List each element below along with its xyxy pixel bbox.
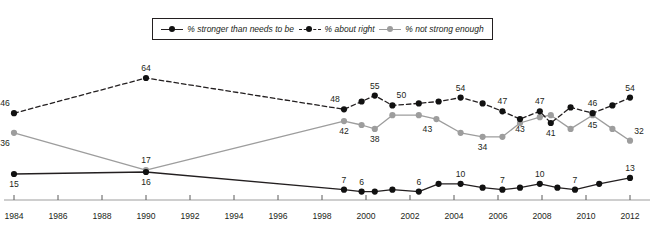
x-axis-tick-label: 2010 bbox=[576, 211, 595, 221]
data-point-label: 10 bbox=[456, 169, 466, 179]
data-point[interactable] bbox=[548, 120, 554, 126]
data-point[interactable] bbox=[389, 187, 395, 193]
chart-root: % stronger than needs to be% about right… bbox=[0, 0, 654, 231]
data-point[interactable] bbox=[548, 112, 554, 118]
data-point[interactable] bbox=[499, 134, 505, 140]
data-point[interactable] bbox=[537, 114, 543, 120]
data-point-label: 46 bbox=[0, 98, 10, 108]
data-point-label: 15 bbox=[9, 179, 19, 189]
x-axis-tick-label: 1988 bbox=[92, 211, 111, 221]
series-line-1 bbox=[14, 115, 630, 170]
data-point[interactable] bbox=[568, 104, 574, 110]
x-axis-tick-label: 2002 bbox=[400, 211, 419, 221]
data-point[interactable] bbox=[341, 118, 347, 124]
data-point-label: 43 bbox=[423, 124, 433, 134]
data-point[interactable] bbox=[436, 98, 442, 104]
data-point-label: 32 bbox=[634, 126, 644, 136]
data-point[interactable] bbox=[341, 187, 347, 193]
data-point-label: 41 bbox=[546, 128, 556, 138]
x-axis-tick-label: 1992 bbox=[180, 211, 199, 221]
data-point[interactable] bbox=[458, 181, 464, 187]
data-point[interactable] bbox=[372, 189, 378, 195]
data-point-label: 64 bbox=[141, 63, 151, 73]
data-point[interactable] bbox=[572, 187, 578, 193]
data-point[interactable] bbox=[499, 108, 505, 114]
data-point-label: 55 bbox=[370, 81, 380, 91]
data-point-label: 54 bbox=[456, 83, 466, 93]
data-point[interactable] bbox=[372, 93, 378, 99]
x-axis-tick-label: 2008 bbox=[532, 211, 551, 221]
data-point-label: 45 bbox=[588, 120, 598, 130]
data-point-label: 7 bbox=[342, 175, 347, 185]
x-axis-tick-label: 1998 bbox=[312, 211, 331, 221]
data-point-label: 7 bbox=[573, 175, 578, 185]
data-point[interactable] bbox=[143, 75, 149, 81]
data-point[interactable] bbox=[537, 108, 543, 114]
data-point-label: 50 bbox=[397, 90, 407, 100]
data-point-label: 17 bbox=[141, 155, 151, 165]
data-point[interactable] bbox=[359, 98, 365, 104]
data-point[interactable] bbox=[458, 95, 464, 101]
data-point[interactable] bbox=[596, 181, 602, 187]
x-axis-tick-label: 2004 bbox=[444, 211, 463, 221]
data-point-label: 6 bbox=[359, 177, 364, 187]
x-axis-tick-label: 1996 bbox=[268, 211, 287, 221]
data-point[interactable] bbox=[609, 102, 615, 108]
data-point[interactable] bbox=[433, 116, 439, 122]
data-point[interactable] bbox=[554, 185, 560, 191]
x-axis-tick-label: 2012 bbox=[620, 211, 639, 221]
data-point[interactable] bbox=[11, 110, 17, 116]
x-axis-tick-label: 1994 bbox=[224, 211, 243, 221]
data-point-label: 38 bbox=[370, 134, 380, 144]
data-point[interactable] bbox=[627, 138, 633, 144]
data-point[interactable] bbox=[416, 100, 422, 106]
data-point-label: 48 bbox=[330, 94, 340, 104]
data-point[interactable] bbox=[372, 126, 378, 132]
data-point[interactable] bbox=[11, 171, 17, 177]
data-point-label: 10 bbox=[535, 169, 545, 179]
data-point-label: 16 bbox=[141, 177, 151, 187]
x-axis-tick-label: 2000 bbox=[356, 211, 375, 221]
data-point[interactable] bbox=[436, 181, 442, 187]
data-point-label: 6 bbox=[416, 177, 421, 187]
data-point[interactable] bbox=[416, 112, 422, 118]
data-point[interactable] bbox=[389, 102, 395, 108]
data-point[interactable] bbox=[480, 100, 486, 106]
data-point-label: 54 bbox=[625, 83, 635, 93]
data-point[interactable] bbox=[568, 126, 574, 132]
x-axis-tick-label: 1990 bbox=[136, 211, 155, 221]
data-point[interactable] bbox=[627, 95, 633, 101]
data-point[interactable] bbox=[627, 175, 633, 181]
x-axis-tick-label: 2006 bbox=[488, 211, 507, 221]
data-point[interactable] bbox=[609, 126, 615, 132]
data-point[interactable] bbox=[517, 116, 523, 122]
data-point[interactable] bbox=[11, 130, 17, 136]
data-point[interactable] bbox=[480, 134, 486, 140]
data-point[interactable] bbox=[143, 169, 149, 175]
data-point-label: 13 bbox=[625, 163, 635, 173]
data-point-label: 47 bbox=[498, 96, 508, 106]
data-point[interactable] bbox=[590, 110, 596, 116]
data-point-label: 42 bbox=[339, 126, 349, 136]
data-point-label: 46 bbox=[588, 98, 598, 108]
x-axis-tick-label: 1984 bbox=[4, 211, 23, 221]
data-point-label: 36 bbox=[0, 138, 10, 148]
data-point-label: 47 bbox=[535, 96, 545, 106]
chart-plot-area bbox=[0, 0, 654, 231]
data-point[interactable] bbox=[458, 130, 464, 136]
data-point[interactable] bbox=[416, 189, 422, 195]
data-point[interactable] bbox=[359, 122, 365, 128]
data-point[interactable] bbox=[499, 187, 505, 193]
data-point[interactable] bbox=[341, 106, 347, 112]
data-point-label: 34 bbox=[478, 142, 488, 152]
data-point-label: 7 bbox=[500, 175, 505, 185]
data-point[interactable] bbox=[537, 181, 543, 187]
data-point-label: 43 bbox=[515, 124, 525, 134]
data-point[interactable] bbox=[389, 112, 395, 118]
data-point[interactable] bbox=[517, 185, 523, 191]
data-point[interactable] bbox=[359, 189, 365, 195]
data-point[interactable] bbox=[480, 185, 486, 191]
x-axis-tick-label: 1986 bbox=[48, 211, 67, 221]
